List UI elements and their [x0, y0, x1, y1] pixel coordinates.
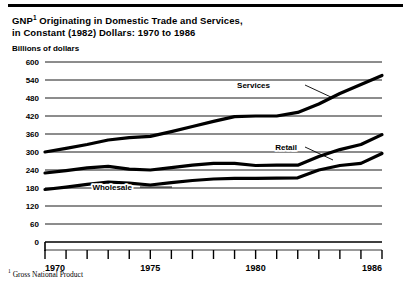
y-tick-label: 60	[30, 220, 39, 229]
y-tick-label: 420	[26, 112, 40, 121]
y-tick-label: 600	[26, 58, 40, 67]
series-label-retail: Retail	[275, 143, 297, 152]
chart-plot: 060120180240300360420480540600 197019751…	[0, 0, 411, 286]
y-axis-tick-labels: 060120180240300360420480540600	[26, 58, 40, 247]
y-tick-label: 300	[26, 148, 40, 157]
y-tick-label: 180	[26, 184, 40, 193]
x-tick-label: 1975	[140, 263, 160, 273]
x-tick-label: 1980	[246, 263, 266, 273]
x-axis-ticks	[45, 250, 382, 259]
y-tick-label: 360	[26, 130, 40, 139]
series-label-wholesale: Wholesale	[92, 183, 132, 192]
y-tick-label: 240	[26, 166, 40, 175]
y-tick-label: 120	[26, 202, 40, 211]
y-tick-label: 0	[35, 238, 40, 247]
series-label-services: Services	[237, 81, 270, 90]
y-tick-label: 480	[26, 94, 40, 103]
data-series-group	[45, 76, 382, 190]
chart-figure: GNP1 Originating in Domestic Trade and S…	[0, 0, 411, 286]
series-leader-line-services	[305, 85, 333, 98]
x-tick-label: 1986	[362, 263, 382, 273]
footnote: 1 Gross National Product	[8, 268, 83, 279]
x-axis-tick-labels: 1970197519801986	[45, 263, 382, 273]
y-tick-label: 540	[26, 76, 40, 85]
footnote-text: Gross National Product	[11, 270, 83, 279]
series-line-services	[45, 76, 382, 153]
